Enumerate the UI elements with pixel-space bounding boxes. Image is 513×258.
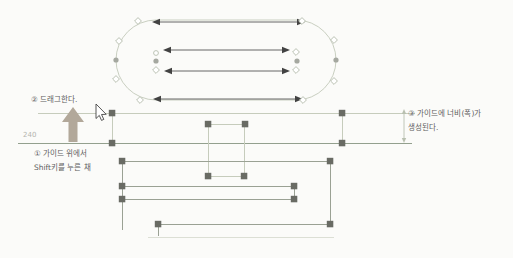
annotation-step-drag-text: ② 드래그한다. (31, 93, 78, 107)
capsule-shape-outline[interactable] (116, 20, 336, 100)
selection-handle[interactable] (119, 196, 126, 203)
selection-handle[interactable] (242, 121, 249, 128)
anchor-diamond[interactable] (153, 67, 160, 74)
annotation-step-drag: ② 드래그한다. (31, 93, 78, 107)
selection-handle[interactable] (109, 110, 116, 117)
annotation-step-result-line2: 생성된다. (408, 121, 481, 135)
anchor-diamond[interactable] (113, 76, 120, 83)
anchor-circle[interactable] (154, 51, 159, 56)
annotation-step-shift-line2: Shift키를 누른 채 (34, 161, 91, 175)
selection-handle[interactable] (327, 158, 334, 165)
selection-handle[interactable] (155, 221, 162, 228)
dimension-arrow-down-icon (402, 138, 406, 143)
anchor-dot[interactable] (294, 58, 299, 63)
anchor-diamond[interactable] (293, 49, 300, 56)
annotation-step-result: ③ 가이드에 너비(폭)가 생성된다. (408, 107, 481, 135)
annotation-step-shift-line1: ① 가이드 위에서 (34, 147, 91, 161)
selection-handle[interactable] (205, 121, 212, 128)
tutorial-figure: ② 드래그한다. ① 가이드 위에서 Shift키를 누른 채 ③ 가이드에 너… (0, 0, 513, 258)
anchor-dot[interactable] (153, 58, 158, 63)
selection-handle[interactable] (339, 110, 346, 117)
selection-handle[interactable] (327, 221, 334, 228)
arrowhead-right-icon (282, 68, 290, 74)
selection-handle[interactable] (205, 173, 212, 180)
annotation-step-shift: ① 가이드 위에서 Shift키를 누른 채 (34, 147, 91, 175)
anchor-diamond[interactable] (116, 38, 123, 45)
anchor-dot[interactable] (333, 57, 338, 62)
annotation-step-result-line1: ③ 가이드에 너비(폭)가 (408, 107, 481, 121)
mouse-cursor-icon (96, 104, 106, 120)
dimension-arrow-up-icon (402, 109, 406, 114)
drag-direction-arrow-icon (62, 107, 84, 142)
anchor-dot[interactable] (113, 57, 118, 62)
anchor-diamond[interactable] (300, 97, 307, 104)
selection-handle[interactable] (291, 183, 298, 190)
selection-handle[interactable] (119, 158, 126, 165)
anchor-diamond[interactable] (293, 67, 300, 74)
selection-handle[interactable] (241, 173, 248, 180)
guide-position-value: 240 (23, 131, 36, 139)
arrowhead-left-icon (163, 47, 171, 53)
arrowhead-left-icon (164, 68, 172, 74)
selection-handle[interactable] (119, 183, 126, 190)
selection-handle[interactable] (109, 140, 116, 147)
selection-handle[interactable] (339, 140, 346, 147)
arrowhead-left-icon (153, 96, 161, 102)
selection-handle[interactable] (291, 196, 298, 203)
arrowhead-right-icon (282, 47, 290, 53)
